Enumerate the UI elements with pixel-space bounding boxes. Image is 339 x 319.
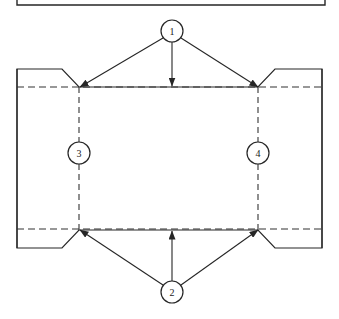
balloon-4[interactable]: 4: [247, 142, 269, 164]
balloon-2-label: 2: [170, 287, 175, 298]
balloon-1[interactable]: 1: [161, 20, 183, 42]
leader-lines-balloon-2: [80, 230, 258, 285]
horizontal-construction-lines: [17, 87, 322, 229]
balloon-3[interactable]: 3: [68, 142, 90, 164]
leader-lines-balloon-1: [80, 38, 258, 87]
balloon-4-label: 4: [256, 148, 261, 159]
technical-drawing: 1 2 3 4: [0, 0, 339, 319]
partial-title-box: [17, 0, 325, 5]
balloon-3-label: 3: [77, 148, 82, 159]
balloon-1-label: 1: [170, 26, 175, 37]
balloon-2[interactable]: 2: [161, 281, 183, 303]
vertical-construction-lines: [79, 87, 258, 230]
part-outline: [17, 69, 322, 248]
drawing-canvas: 1 2 3 4: [0, 0, 339, 319]
